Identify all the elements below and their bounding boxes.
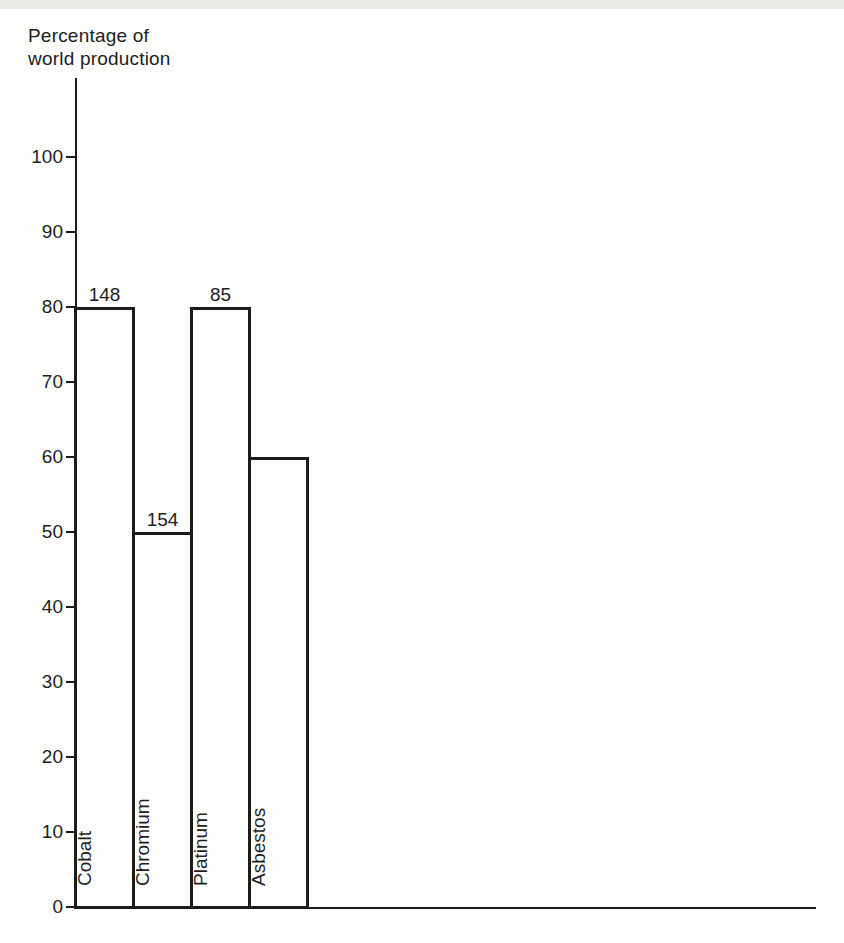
y-tick-label: 80: [0, 296, 63, 318]
bar-chart: 0102030405060708090100148Cobalt154Chromi…: [0, 0, 844, 943]
bar-value-label: 85: [210, 285, 231, 305]
y-tick-label: 70: [0, 371, 63, 393]
y-tick-label: 10: [0, 821, 63, 843]
y-tick-label: 100: [0, 146, 63, 168]
scanned-page: Percentage of world production 010203040…: [0, 0, 844, 943]
y-tick-label: 30: [0, 671, 63, 693]
bar-asbestos: Asbestos: [248, 457, 309, 909]
bar-category-label: Cobalt: [75, 831, 95, 886]
bar-category-label: Chromium: [133, 798, 153, 886]
bar-category-label: Platinum: [191, 812, 211, 886]
bar-chromium: 154Chromium: [132, 532, 193, 909]
y-axis-tick: [66, 156, 75, 158]
bar-value-label: 154: [147, 510, 179, 530]
y-tick-label: 0: [0, 896, 63, 918]
bar-cobalt: 148Cobalt: [74, 307, 135, 909]
y-axis-tick: [66, 231, 75, 233]
bar-platinum: 85Platinum: [190, 307, 251, 909]
y-tick-label: 60: [0, 446, 63, 468]
bar-value-label: 148: [89, 285, 121, 305]
y-tick-label: 20: [0, 746, 63, 768]
y-tick-label: 90: [0, 221, 63, 243]
y-tick-label: 50: [0, 521, 63, 543]
y-tick-label: 40: [0, 596, 63, 618]
bar-category-label: Asbestos: [249, 808, 269, 886]
